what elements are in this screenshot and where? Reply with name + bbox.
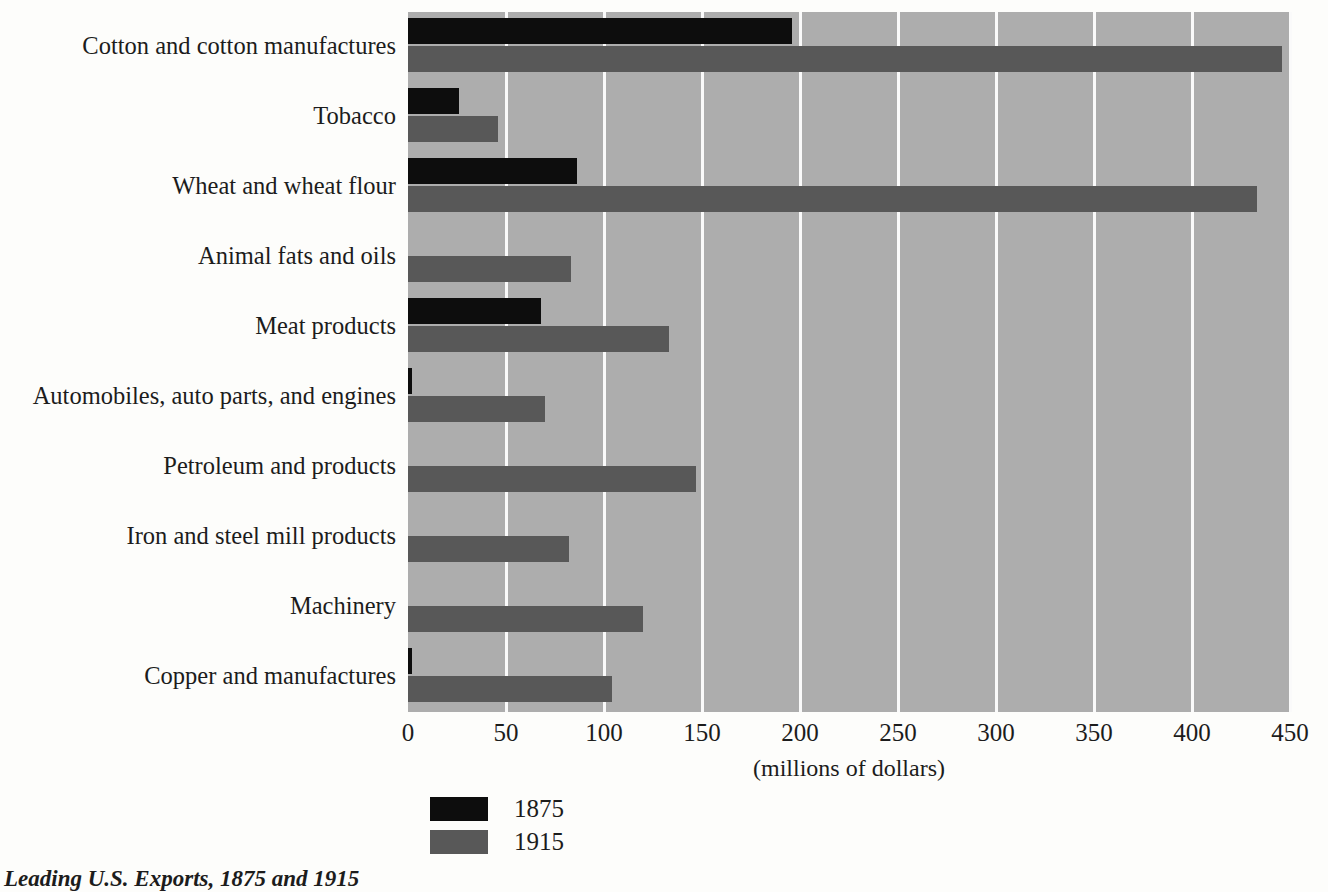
x-tick-label: 300 [977, 718, 1015, 748]
x-tick-label: 0 [402, 718, 415, 748]
bar-1915[interactable] [408, 186, 1257, 212]
legend-swatch-icon [430, 830, 488, 854]
bar-1875[interactable] [408, 88, 459, 114]
category-label: Copper and manufactures [0, 662, 396, 690]
x-tick-label: 150 [683, 718, 721, 748]
bar-1875[interactable] [408, 298, 541, 324]
category-label: Automobiles, auto parts, and engines [0, 382, 396, 410]
category-label: Wheat and wheat flour [0, 172, 396, 200]
bar-1915[interactable] [408, 256, 571, 282]
x-tick-label: 50 [494, 718, 519, 748]
bar-row [408, 432, 1290, 502]
category-label: Iron and steel mill products [0, 522, 396, 550]
figure-caption: Leading U.S. Exports, 1875 and 1915 [4, 866, 359, 892]
bar-row [408, 292, 1290, 362]
category-label: Petroleum and products [0, 452, 396, 480]
legend-label: 1875 [514, 795, 564, 823]
bar-row [408, 12, 1290, 82]
x-tick-label: 250 [879, 718, 917, 748]
bar-row [408, 502, 1290, 572]
x-tick-label: 350 [1075, 718, 1113, 748]
bar-row [408, 362, 1290, 432]
bar-row [408, 82, 1290, 152]
category-label: Cotton and cotton manufactures [0, 32, 396, 60]
bar-1915[interactable] [408, 536, 569, 562]
legend-swatch-icon [430, 797, 488, 821]
bar-1915[interactable] [408, 396, 545, 422]
bar-1915[interactable] [408, 46, 1282, 72]
chart-plot-area [408, 12, 1290, 712]
category-label: Machinery [0, 592, 396, 620]
category-axis-labels: Cotton and cotton manufacturesTobaccoWhe… [0, 12, 396, 712]
bar-1915[interactable] [408, 466, 696, 492]
legend-label: 1915 [514, 828, 564, 856]
bar-1915[interactable] [408, 116, 498, 142]
x-tick-label: 400 [1173, 718, 1211, 748]
bar-row [408, 152, 1290, 222]
bar-1875[interactable] [408, 158, 577, 184]
bar-row [408, 642, 1290, 712]
bar-rows [408, 12, 1290, 712]
category-label: Animal fats and oils [0, 242, 396, 270]
bar-1875[interactable] [408, 368, 412, 394]
x-tick-label: 200 [781, 718, 819, 748]
x-tick-label: 450 [1271, 718, 1309, 748]
bar-1875[interactable] [408, 18, 792, 44]
bar-row [408, 572, 1290, 642]
category-label: Meat products [0, 312, 396, 340]
bar-1915[interactable] [408, 326, 669, 352]
category-label: Tobacco [0, 102, 396, 130]
bar-1915[interactable] [408, 676, 612, 702]
x-tick-label: 100 [585, 718, 623, 748]
bar-row [408, 222, 1290, 292]
legend-item[interactable]: 1915 [430, 825, 564, 858]
x-axis-title: (millions of dollars) [408, 755, 1290, 782]
bar-1915[interactable] [408, 606, 643, 632]
bar-1875[interactable] [408, 648, 412, 674]
chart-legend: 18751915 [430, 792, 564, 858]
x-axis-tick-labels: 050100150200250300350400450 [408, 718, 1290, 752]
legend-item[interactable]: 1875 [430, 792, 564, 825]
